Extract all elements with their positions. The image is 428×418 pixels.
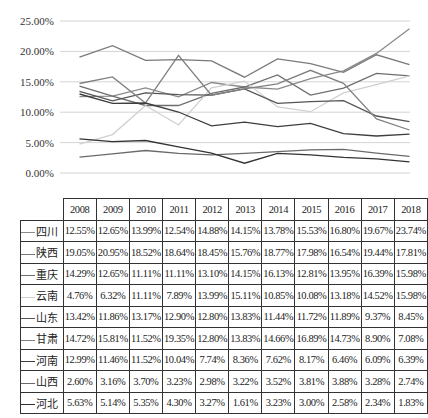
table-cell: 3.52%: [262, 371, 295, 393]
y-tick-label: 15.00%: [20, 76, 54, 88]
table-cell: 1.83%: [394, 392, 427, 414]
series-name: 河南: [36, 355, 58, 368]
table-cell: 13.18%: [328, 285, 361, 307]
table-cell: 16.80%: [328, 220, 361, 242]
series-line: [80, 149, 410, 157]
legend-swatch-icon: [21, 340, 35, 341]
series-line: [80, 89, 410, 122]
table-cell: 18.64%: [162, 242, 195, 264]
series-line: [80, 76, 410, 144]
table-cell: 15.76%: [229, 242, 262, 264]
y-tick-label: 0.00%: [26, 167, 54, 179]
table-cell: 20.95%: [96, 242, 129, 264]
table-cell: 7.62%: [262, 349, 295, 371]
table-cell: 5.35%: [129, 392, 162, 414]
table-cell: 18.52%: [129, 242, 162, 264]
table-row: 云南4.76%6.32%11.11%7.89%13.99%15.11%10.85…: [21, 285, 428, 307]
table-cell: 23.74%: [394, 220, 427, 242]
year-header: 2017: [361, 199, 394, 221]
table-cell: 13.42%: [63, 306, 96, 328]
year-header: 2010: [129, 199, 162, 221]
table-cell: 3.00%: [295, 392, 328, 414]
year-header: 2008: [63, 199, 96, 221]
table-row: 山东13.42%11.86%13.17%12.90%12.80%13.83%11…: [21, 306, 428, 328]
series-name: 甘肃: [36, 333, 58, 346]
table-cell: 4.30%: [162, 392, 195, 414]
table-cell: 13.83%: [229, 328, 262, 350]
table-cell: 11.52%: [129, 349, 162, 371]
series-legend-label: 陕西: [21, 242, 64, 264]
series-line: [80, 46, 410, 78]
legend-swatch-icon: [21, 297, 35, 298]
table-cell: 15.98%: [394, 285, 427, 307]
table-cell: 14.29%: [63, 263, 96, 285]
table-cell: 11.72%: [295, 306, 328, 328]
table-cell: 13.10%: [196, 263, 229, 285]
table-cell: 4.76%: [63, 285, 96, 307]
series-legend-label: 云南: [21, 285, 64, 307]
table-cell: 19.35%: [162, 328, 195, 350]
series-legend-label: 重庆: [21, 263, 64, 285]
legend-swatch-icon: [21, 232, 35, 233]
table-row: 河南12.99%11.46%11.52%10.04%7.74%8.36%7.62…: [21, 349, 428, 371]
table-cell: 17.98%: [295, 242, 328, 264]
table-cell: 13.17%: [129, 306, 162, 328]
table-cell: 14.88%: [196, 220, 229, 242]
table-cell: 13.95%: [328, 263, 361, 285]
table-cell: 5.63%: [63, 392, 96, 414]
series-legend-label: 四川: [21, 220, 64, 242]
table-cell: 7.08%: [394, 328, 427, 350]
year-header: 2011: [162, 199, 195, 221]
table-cell: 16.13%: [262, 263, 295, 285]
table-cell: 16.54%: [328, 242, 361, 264]
year-header: 2018: [394, 199, 427, 221]
gridlines: [60, 21, 410, 173]
year-header: 2012: [196, 199, 229, 221]
table-cell: 12.65%: [96, 220, 129, 242]
data-table: 2008200920102011201220132014201520162017…: [20, 198, 428, 414]
table-body: 四川12.55%12.65%13.99%12.54%14.88%14.15%13…: [21, 220, 428, 414]
series-name: 山西: [36, 376, 58, 389]
table-header-row: 2008200920102011201220132014201520162017…: [21, 199, 428, 221]
table-cell: 2.58%: [328, 392, 361, 414]
table-cell: 19.67%: [361, 220, 394, 242]
table-cell: 12.54%: [162, 220, 195, 242]
table-cell: 19.44%: [361, 242, 394, 264]
table-cell: 15.53%: [295, 220, 328, 242]
table-cell: 12.81%: [295, 263, 328, 285]
table-cell: 3.22%: [229, 371, 262, 393]
legend-swatch-icon: [21, 275, 35, 276]
table-row: 山西2.60%3.16%3.70%3.23%2.98%3.22%3.52%3.8…: [21, 371, 428, 393]
table-cell: 14.66%: [262, 328, 295, 350]
year-header: 2013: [229, 199, 262, 221]
legend-swatch-icon: [21, 254, 35, 255]
table-cell: 3.23%: [262, 392, 295, 414]
table-cell: 3.70%: [129, 371, 162, 393]
table-cell: 8.90%: [361, 328, 394, 350]
y-axis-ticks: 25.00%20.00%15.00%10.00%5.00%0.00%: [20, 15, 54, 179]
y-tick-label: 10.00%: [20, 106, 54, 118]
series-name: 河北: [36, 398, 58, 411]
table-cell: 3.23%: [162, 371, 195, 393]
table-cell: 14.73%: [328, 328, 361, 350]
table-cell: 8.17%: [295, 349, 328, 371]
table-cell: 19.05%: [63, 242, 96, 264]
table-cell: 10.85%: [262, 285, 295, 307]
table-cell: 14.15%: [229, 263, 262, 285]
table-cell: 15.98%: [394, 263, 427, 285]
table-cell: 11.52%: [129, 328, 162, 350]
table-cell: 2.60%: [63, 371, 96, 393]
table-cell: 13.99%: [196, 285, 229, 307]
table-cell: 13.78%: [262, 220, 295, 242]
table-cell: 14.15%: [229, 220, 262, 242]
table-cell: 12.80%: [196, 328, 229, 350]
table-cell: 3.27%: [196, 392, 229, 414]
series-line: [80, 55, 410, 130]
year-header: 2014: [262, 199, 295, 221]
series-legend-label: 河南: [21, 349, 64, 371]
table-cell: 11.11%: [129, 285, 162, 307]
series-name: 山东: [36, 312, 58, 325]
table-cell: 8.45%: [394, 306, 427, 328]
table-cell: 10.08%: [295, 285, 328, 307]
table-cell: 12.90%: [162, 306, 195, 328]
